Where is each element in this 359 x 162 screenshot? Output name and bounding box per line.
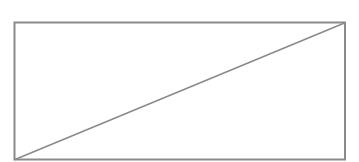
placeholder-diagonal-line [15,23,345,160]
placeholder-graphic [0,0,359,162]
image-placeholder [0,0,359,162]
